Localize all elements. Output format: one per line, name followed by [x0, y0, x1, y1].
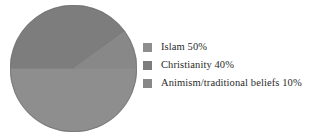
legend-label-christianity: Christianity 40%	[161, 59, 234, 71]
legend-swatch-christianity-icon	[143, 61, 152, 70]
legend-item-animism: Animism/traditional beliefs 10%	[143, 74, 309, 92]
legend-swatch-islam-icon	[143, 43, 152, 52]
legend-item-islam: Islam 50%	[143, 38, 309, 56]
chart-legend: Islam 50% Christianity 40% Animism/tradi…	[143, 38, 309, 92]
legend-label-animism: Animism/traditional beliefs 10%	[161, 77, 302, 89]
legend-label-islam: Islam 50%	[161, 41, 207, 53]
legend-swatch-animism-icon	[143, 79, 152, 88]
legend-item-christianity: Christianity 40%	[143, 56, 309, 74]
pie-chart-figure: Islam 50% Christianity 40% Animism/tradi…	[0, 0, 309, 139]
islam-slice	[10, 69, 137, 133]
pie-chart-graphic	[10, 5, 137, 132]
pie-svg	[10, 5, 137, 132]
